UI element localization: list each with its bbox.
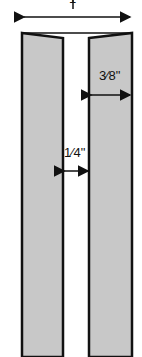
left-strip xyxy=(22,33,63,357)
strip-diagram xyxy=(0,0,142,357)
right-width-label: 3⁄8" xyxy=(99,68,120,83)
overall-width-label: 1 xyxy=(69,0,76,6)
gap-width-label: 1⁄4" xyxy=(64,145,85,160)
